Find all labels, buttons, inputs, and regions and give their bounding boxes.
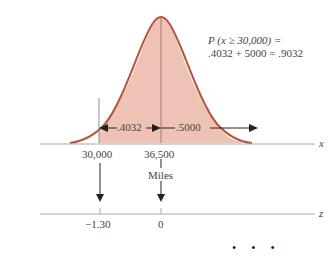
- arrow-right-icon: [249, 124, 258, 132]
- left-region-label: .4032: [117, 121, 142, 133]
- arrow-down-icon: [96, 194, 104, 202]
- x-axis-label: x: [319, 137, 324, 149]
- formula-line-2: .4032 + 5000 = .9032: [208, 47, 303, 60]
- arrow-down-icon: [157, 194, 165, 202]
- x-tick-36500: 36,500: [144, 148, 174, 160]
- x-tick-30000: 30,000: [82, 148, 112, 160]
- formula-line-1: P (x ≥ 30,000) =: [208, 34, 303, 47]
- right-region-label: .5000: [176, 121, 201, 133]
- unit-label: Miles: [148, 169, 173, 181]
- z-axis-label: z: [319, 207, 323, 219]
- z-tick-0: 0: [158, 218, 164, 230]
- z-tick-neg130: −1.30: [85, 218, 110, 230]
- probability-formula: P (x ≥ 30,000) = .4032 + 5000 = .9032: [208, 34, 303, 60]
- ellipsis: • • •: [232, 241, 281, 256]
